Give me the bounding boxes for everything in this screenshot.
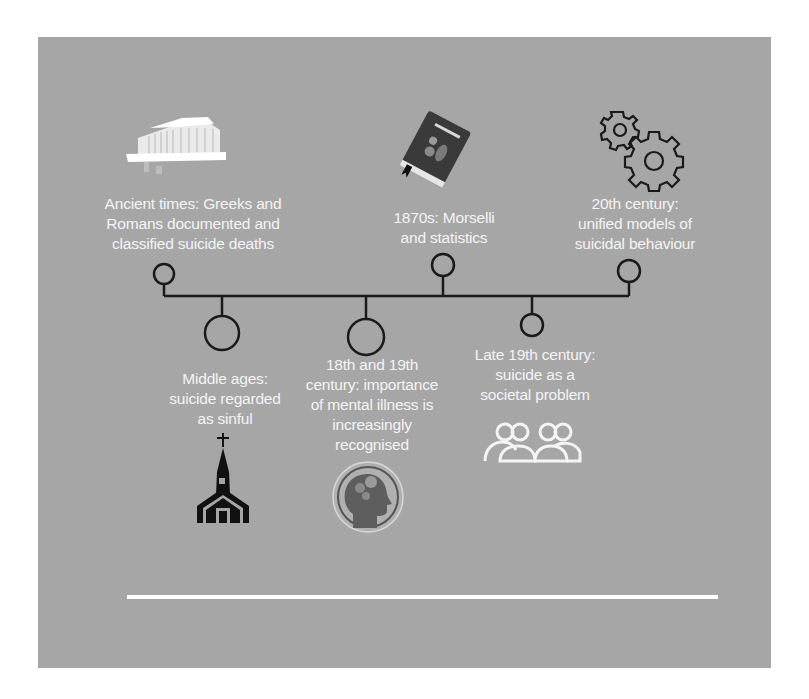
label-line: classified suicide deaths [84, 234, 302, 254]
label-line: increasingly [298, 415, 446, 435]
label-line: century: importance [298, 375, 446, 395]
label-line: of mental illness is [298, 395, 446, 415]
timeline-node-ancient [154, 264, 174, 284]
label-line: suicide regarded [156, 389, 294, 409]
gears-icon [601, 112, 683, 191]
head-gears-icon [333, 462, 403, 532]
label-line: 1870s: Morselli [378, 208, 510, 228]
label-line: and statistics [378, 228, 510, 248]
timeline-axis [164, 276, 629, 319]
label-line: Late 19th century: [460, 345, 610, 365]
event-label-late-19th: Late 19th century: suicide as a societal… [460, 345, 610, 405]
event-label-1870s: 1870s: Morselli and statistics [378, 208, 510, 248]
timeline-node-18th-19th [348, 319, 384, 355]
label-line: Romans documented and [84, 214, 302, 234]
label-line: suicide as a [460, 365, 610, 385]
greek-temple-icon [126, 117, 226, 174]
church-icon [197, 433, 249, 523]
people-group-icon [485, 424, 580, 461]
book-icon [396, 110, 471, 194]
timeline-node-1870s [432, 254, 454, 276]
label-line: recognised [298, 435, 446, 455]
event-label-middle-ages: Middle ages: suicide regarded as sinful [156, 369, 294, 429]
label-line: suicidal behaviour [560, 234, 710, 254]
timeline-node-middle-ages [205, 316, 239, 350]
event-label-20th: 20th century: unified models of suicidal… [560, 194, 710, 254]
label-line: Middle ages: [156, 369, 294, 389]
event-label-18th-19th: 18th and 19th century: importance of men… [298, 355, 446, 455]
event-label-ancient: Ancient times: Greeks and Romans documen… [84, 194, 302, 254]
timeline-graphic [0, 0, 809, 699]
label-line: 20th century: [560, 194, 710, 214]
label-line: Ancient times: Greeks and [84, 194, 302, 214]
label-line: 18th and 19th [298, 355, 446, 375]
label-line: societal problem [460, 385, 610, 405]
timeline-node-20th [618, 260, 640, 282]
label-line: as sinful [156, 409, 294, 429]
label-line: unified models of [560, 214, 710, 234]
timeline-node-late-19th [521, 314, 543, 336]
